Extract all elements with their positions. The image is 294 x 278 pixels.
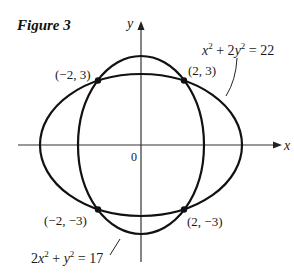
- point-label-2-neg3: (2, −3): [187, 214, 223, 229]
- leader-line-17: [110, 239, 120, 255]
- y-axis-arrow-icon: [138, 21, 145, 30]
- point-label-2-3: (2, 3): [188, 63, 216, 78]
- equation-label-17: 2x2 + y2 = 17: [31, 249, 103, 266]
- point-neg2-3: [95, 77, 101, 83]
- point-label-neg2-3: (−2, 3): [55, 67, 91, 82]
- figure-title: Figure 3: [16, 17, 71, 33]
- point-2-3: [181, 77, 187, 83]
- x-axis-arrow-icon: [273, 142, 282, 149]
- figure-canvas: Figure 3 x y 0 (−2, 3) (2, 3) (−2, −3) (…: [0, 0, 294, 278]
- equation-label-22: x2 + 2y2 = 22: [201, 41, 274, 58]
- y-axis-label: y: [125, 16, 134, 31]
- origin-label: 0: [131, 150, 137, 164]
- point-2-neg3: [181, 206, 187, 212]
- point-label-neg2-neg3: (−2, −3): [44, 213, 87, 228]
- point-neg2-neg3: [95, 206, 101, 212]
- leader-line-22: [226, 58, 237, 96]
- x-axis-label: x: [283, 138, 291, 153]
